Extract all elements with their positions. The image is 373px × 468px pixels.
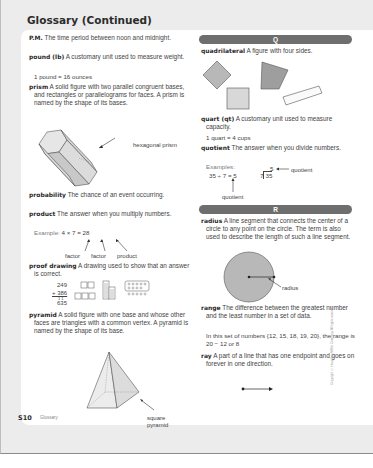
quotient-below-label: quotient: [222, 193, 243, 201]
term: range: [201, 304, 221, 311]
radius-label: radius: [282, 284, 298, 292]
product-example: Example: 4 × 7 = 28: [34, 229, 89, 237]
page-number: S10: [18, 414, 32, 422]
entry-pyramid: pyramid A solid figure with one base and…: [29, 311, 192, 335]
entry-quadrilateral: quadrilateral A figure with four sides.: [201, 47, 356, 55]
definition: A solid figure with one base and whose o…: [34, 311, 188, 334]
entry-pound: pound (lb) A customary unit used to meas…: [29, 53, 192, 61]
entry-quotient: quotient The answer when you divide numb…: [201, 144, 356, 152]
definition: The answer when you divide numbers.: [232, 144, 341, 151]
definition: The answer when you multiply numbers.: [57, 210, 171, 217]
glossary-card: P.M. The time period between noon and mi…: [21, 30, 373, 425]
example-equation: 4 × 7 = 28: [62, 229, 90, 236]
glossary-page: Glossary (Continued) P.M. The time perio…: [0, 0, 373, 454]
square-pyramid-label-2: pyramid: [147, 421, 168, 429]
definition: The time period between noon and midnigh…: [45, 34, 171, 41]
quotient-side-label: quotient: [291, 166, 312, 174]
entry-probability: probability The chance of an event occur…: [29, 191, 192, 199]
quotient-arrows: [201, 166, 301, 196]
square-pyramid-figure: [79, 350, 159, 410]
entry-radius: radius A line segment that connects the …: [201, 217, 356, 241]
quart-example: 1 quart = 4 cups: [206, 134, 251, 142]
term: quadrilateral: [201, 47, 245, 54]
ray-figure: [241, 385, 281, 393]
base-ten-blocks-figure: [81, 281, 163, 303]
entry-prism: prism A solid figure with two parallel c…: [29, 83, 192, 107]
product-arrows: [79, 238, 139, 252]
definition: A line segment that connects the center …: [206, 217, 350, 240]
addend-1: 249: [57, 281, 67, 289]
term: pound (lb): [29, 53, 64, 60]
term: prism: [29, 83, 48, 90]
definition: A customary unit used to measure weight.: [66, 53, 185, 60]
term: P.M.: [29, 34, 43, 41]
term: quart (qt): [201, 115, 234, 122]
entry-pm: P.M. The time period between noon and mi…: [29, 34, 192, 42]
hexagonal-prism-label: hexagonal prism: [133, 141, 177, 149]
copyright-notice: Copyright © Houghton Mifflin Company. Al…: [330, 255, 336, 385]
entry-proof-drawing: proof drawing A drawing used to show tha…: [29, 262, 192, 278]
example-label: Example:: [34, 229, 60, 236]
term: quotient: [201, 144, 230, 151]
definition: A solid figure with two parallel congrue…: [34, 83, 184, 106]
definition: The difference between the greatest numb…: [206, 304, 348, 319]
radius-circle-figure: [225, 251, 305, 303]
section-header-r: R: [199, 205, 352, 214]
section-header-q: Q: [199, 35, 352, 44]
definition: A figure with four sides.: [246, 47, 312, 54]
quadrilateral-shapes-figure: [201, 58, 331, 110]
term: probability: [29, 191, 66, 198]
product-label: product: [117, 252, 137, 260]
sum: 635: [57, 299, 67, 307]
term: pyramid: [29, 311, 57, 318]
entry-quart: quart (qt) A customary unit used to meas…: [201, 115, 356, 131]
term: ray: [201, 352, 212, 359]
footer-section-label: Glossary: [40, 415, 58, 420]
definition: The chance of an event occurring.: [68, 191, 165, 198]
hexagonal-prism-figure: [35, 126, 115, 186]
factor-label-1: factor: [65, 252, 80, 260]
page-title: Glossary (Continued): [27, 14, 152, 26]
term: product: [29, 210, 55, 217]
entry-product: product The answer when you multiply num…: [29, 210, 192, 218]
term: proof drawing: [29, 262, 77, 269]
term: radius: [201, 217, 222, 224]
pound-example: 1 pound = 16 ounces: [34, 73, 92, 81]
factor-label-2: factor: [91, 252, 106, 260]
